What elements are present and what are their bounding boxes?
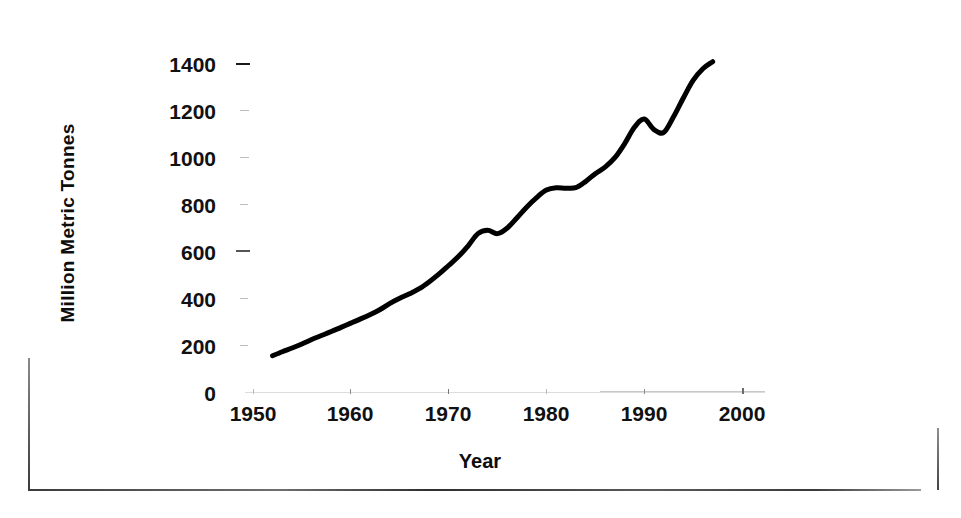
chart-figure: Million Metric Tonnes Year 1400 1200 100…	[0, 0, 961, 518]
data-series-line	[0, 0, 961, 518]
plot-area: Million Metric Tonnes Year 1400 1200 100…	[0, 0, 961, 518]
